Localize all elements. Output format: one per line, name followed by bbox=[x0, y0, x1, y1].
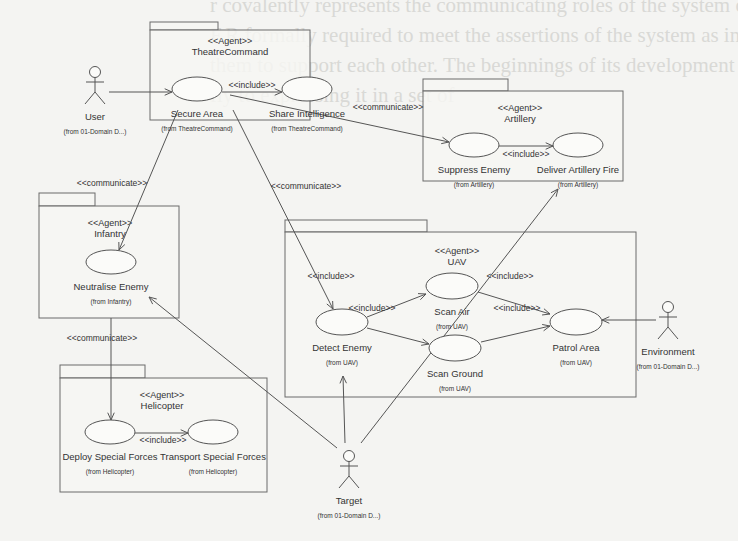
use-case-name: Transport Special Forces bbox=[160, 451, 266, 462]
package-tab bbox=[60, 365, 145, 378]
use-case-ellipse-icon bbox=[429, 335, 481, 361]
relation-label: <<include>> bbox=[229, 80, 276, 90]
package-tab bbox=[285, 220, 427, 232]
use-case-name: Detect Enemy bbox=[312, 342, 372, 353]
use-case-origin: (from Artillery) bbox=[558, 181, 598, 189]
actor-name: Environment bbox=[641, 346, 695, 357]
relation-label: <<include>> bbox=[503, 149, 550, 159]
use-case-ellipse-icon bbox=[426, 273, 478, 299]
actor-user[interactable]: User(from 01-Domain D...) bbox=[64, 67, 127, 137]
use-case-origin: (from UAV) bbox=[560, 359, 592, 367]
relation-label: <<communicate>> bbox=[77, 178, 147, 188]
use-case-origin: (from Helicopter) bbox=[86, 468, 134, 476]
use-case-name: Secure Area bbox=[171, 108, 224, 119]
use-case-name: Scan Ground bbox=[427, 368, 483, 379]
relation-label: <<communicate>> bbox=[353, 102, 423, 112]
use-case-ellipse-icon bbox=[553, 133, 603, 157]
use-case-origin: (from Infantry) bbox=[91, 298, 132, 306]
package-stereotype: <<Agent>> bbox=[208, 36, 253, 46]
package-name: UAV bbox=[448, 256, 467, 267]
use-case-origin: (from Artillery) bbox=[454, 181, 494, 189]
relation-label: <<include>> bbox=[308, 271, 355, 281]
actor-origin: (from 01-Domain D...) bbox=[637, 363, 700, 371]
use-case-origin: (from TheatreCommand) bbox=[161, 125, 232, 133]
use-case-ellipse-icon bbox=[282, 77, 332, 101]
package-theatre[interactable]: <<Agent>>TheatreCommand bbox=[150, 22, 310, 120]
package-name: Artillery bbox=[504, 113, 536, 124]
relation-label: <<include>> bbox=[494, 303, 541, 313]
use-case-ellipse-icon bbox=[188, 420, 238, 444]
use-case-diagram: <<Agent>>TheatreCommand<<Agent>>Artiller… bbox=[0, 0, 738, 541]
stick-figure-icon bbox=[85, 67, 105, 105]
package-name: Helicopter bbox=[141, 400, 184, 411]
package-tab bbox=[423, 79, 508, 91]
use-case-origin: (from UAV) bbox=[436, 323, 468, 331]
use-case-origin: (from TheatreCommand) bbox=[271, 125, 342, 133]
actor-origin: (from 01-Domain D...) bbox=[64, 128, 127, 136]
use-case-name: Scan Air bbox=[434, 306, 469, 317]
use-case-name: Patrol Area bbox=[553, 342, 601, 353]
use-case-ellipse-icon bbox=[172, 77, 222, 101]
use-case-ellipse-icon bbox=[316, 309, 368, 335]
relation-label: <<communicate>> bbox=[271, 181, 341, 191]
use-case-origin: (from UAV) bbox=[439, 385, 471, 393]
use-case-ellipse-icon bbox=[550, 309, 602, 335]
use-case-name: Share Intelligence bbox=[269, 108, 345, 119]
use-case-ellipse-icon bbox=[86, 250, 136, 274]
actor-name: User bbox=[85, 111, 105, 122]
use-case-origin: (from UAV) bbox=[326, 359, 358, 367]
relation-plain[interactable]: <<include>> bbox=[308, 271, 355, 281]
relation-label: <<communicate>> bbox=[67, 333, 137, 343]
use-case-origin: (from Helicopter) bbox=[189, 468, 237, 476]
package-tab bbox=[39, 193, 95, 206]
package-name: Infantry bbox=[94, 228, 126, 239]
use-case-ellipse-icon bbox=[85, 420, 135, 444]
package-stereotype: <<Agent>> bbox=[140, 390, 185, 400]
package-name: TheatreCommand bbox=[192, 46, 269, 57]
actor-environment[interactable]: Environment(from 01-Domain D...) bbox=[637, 302, 700, 372]
use-case-name: Deploy Special Forces bbox=[62, 451, 157, 462]
actor-origin: (from 01-Domain D...) bbox=[318, 512, 381, 520]
package-stereotype: <<Agent>> bbox=[88, 218, 133, 228]
package-stereotype: <<Agent>> bbox=[435, 246, 480, 256]
actor-target[interactable]: Target(from 01-Domain D...) bbox=[318, 451, 381, 521]
use-case-ellipse-icon bbox=[449, 133, 499, 157]
use-case-name: Neutralise Enemy bbox=[74, 281, 149, 292]
relation-label: <<include>> bbox=[140, 435, 187, 445]
package-tab bbox=[150, 22, 218, 30]
stick-figure-icon bbox=[658, 302, 678, 340]
package-stereotype: <<Agent>> bbox=[498, 103, 543, 113]
use-case-name: Deliver Artillery Fire bbox=[537, 164, 619, 175]
use-case-name: Suppress Enemy bbox=[438, 164, 511, 175]
actor-name: Target bbox=[336, 495, 363, 506]
stick-figure-icon bbox=[339, 451, 359, 489]
